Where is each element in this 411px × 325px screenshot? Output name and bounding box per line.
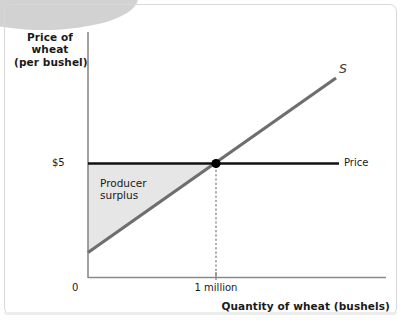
y-axis-tick-label-5-dollars: $5 bbox=[52, 157, 65, 169]
figure-page: Price of wheat (per bushel) Quantity of … bbox=[0, 0, 411, 325]
supply-curve-label: S bbox=[339, 62, 347, 77]
x-axis-title: Quantity of wheat (bushels) bbox=[200, 300, 390, 312]
producer-surplus-label: Producer surplus bbox=[100, 177, 147, 202]
price-line-label: Price bbox=[344, 157, 368, 169]
x-axis-origin-label: 0 bbox=[72, 282, 78, 294]
equilibrium-point-marker bbox=[211, 159, 220, 168]
y-axis-title: Price of wheat (per bushel) bbox=[14, 31, 86, 68]
x-axis-tick-label-1-million: 1 million bbox=[181, 282, 251, 294]
